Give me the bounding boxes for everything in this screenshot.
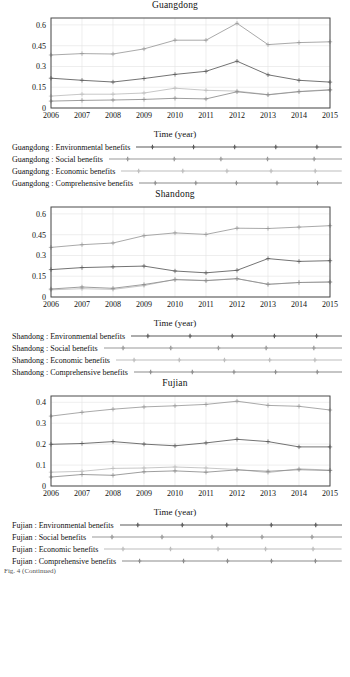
legend-line-economic [121,165,342,177]
legend-row[interactable]: Fujian : Social benefits [0,531,350,543]
legend-line-social [92,531,342,543]
legend-line-social [109,153,342,165]
x-axis-label: Time (year) [0,129,350,139]
panel-fujian: Fujian 00.10.20.30.420062007200820092010… [0,378,350,567]
y-tick-label: 0.45 [32,231,46,240]
x-tick-label: 2015 [322,111,338,120]
x-tick-label: 2007 [74,489,90,498]
y-tick-label: 0.3 [36,251,46,260]
series-line-social [51,401,330,416]
x-tick-label: 2010 [167,111,183,120]
legend-label: Shandong : Comprehensive benefits [0,368,128,377]
series-line-environmental [51,61,330,82]
multi-panel-line-chart-figure: Guangdong 00.150.30.450.6200620072008200… [0,0,350,567]
legend-label: Fujian : Comprehensive benefits [0,557,116,566]
x-tick-label: 2010 [167,300,183,309]
plot-area: 00.150.30.450.62006200720082009201020112… [0,10,350,130]
y-tick-label: 0.3 [36,419,46,428]
y-tick-label: 0.15 [32,272,46,281]
series-line-comprehensive [51,90,330,101]
y-tick-label: 0.6 [36,21,46,30]
x-tick-label: 2009 [136,111,152,120]
legend-line-environmental [120,519,342,531]
y-tick-label: 0.45 [32,42,46,51]
legend: Fujian : Environmental benefits Fujian :… [0,519,350,567]
legend-line-environmental [131,330,342,342]
legend-row[interactable]: Guangdong : Comprehensive benefits [0,177,350,189]
series-line-economic [51,88,330,96]
legend-line-economic [104,543,342,555]
x-tick-label: 2014 [291,111,307,120]
legend-row[interactable]: Shandong : Comprehensive benefits [0,366,350,378]
panel-shandong: Shandong 00.150.30.450.62006200720082009… [0,189,350,378]
legend-row[interactable]: Fujian : Economic benefits [0,543,350,555]
series-line-comprehensive [51,470,330,477]
plot-wrapper: 00.10.20.30.4200620072008200920102011201… [0,388,350,508]
figure-caption-cut: Fig. 4 (Continued) [0,567,350,574]
series-line-social [51,23,330,55]
x-tick-label: 2009 [136,489,152,498]
series-line-comprehensive [51,279,330,289]
legend-label: Shandong : Environmental benefits [0,332,125,341]
legend-label: Guangdong : Economic benefits [0,167,115,176]
plot-area: 00.10.20.30.4200620072008200920102011201… [0,388,350,508]
x-tick-label: 2014 [291,489,307,498]
panel-title: Guangdong [0,0,350,10]
legend-row[interactable]: Shandong : Environmental benefits [0,330,350,342]
series-line-environmental [51,259,330,273]
x-tick-label: 2012 [229,489,245,498]
legend: Shandong : Environmental benefits Shando… [0,330,350,378]
legend-line-economic [116,354,342,366]
y-tick-label: 0.2 [36,440,46,449]
x-tick-label: 2013 [260,489,276,498]
x-tick-label: 2014 [291,300,307,309]
series-line-environmental [51,439,330,447]
legend-line-social [104,342,342,354]
legend-line-environmental [136,141,342,153]
x-tick-label: 2015 [322,489,338,498]
plot-wrapper: 00.150.30.450.62006200720082009201020112… [0,10,350,130]
panel-title: Shandong [0,189,350,199]
x-tick-label: 2011 [198,300,214,309]
legend-row[interactable]: Shandong : Social benefits [0,342,350,354]
x-tick-label: 2007 [74,300,90,309]
x-tick-label: 2010 [167,489,183,498]
x-tick-label: 2015 [322,300,338,309]
legend-line-comprehensive [122,555,342,567]
legend-label: Fujian : Social benefits [0,533,86,542]
plot-wrapper: 00.150.30.450.62006200720082009201020112… [0,199,350,319]
x-tick-label: 2006 [43,300,59,309]
legend-row[interactable]: Shandong : Economic benefits [0,354,350,366]
legend-line-comprehensive [139,177,342,189]
x-tick-label: 2008 [105,489,121,498]
y-tick-label: 0.6 [36,210,46,219]
legend-line-comprehensive [134,366,342,378]
legend: Guangdong : Environmental benefits Guang… [0,141,350,189]
x-tick-label: 2008 [105,300,121,309]
legend-label: Shandong : Economic benefits [0,356,110,365]
x-tick-label: 2006 [43,489,59,498]
x-tick-label: 2008 [105,111,121,120]
legend-row[interactable]: Guangdong : Economic benefits [0,165,350,177]
legend-label: Shandong : Social benefits [0,344,98,353]
y-tick-label: 0.15 [32,83,46,92]
x-tick-label: 2007 [74,111,90,120]
x-tick-label: 2012 [229,300,245,309]
x-tick-label: 2012 [229,111,245,120]
x-tick-label: 2011 [198,111,214,120]
x-axis-label: Time (year) [0,318,350,328]
legend-label: Guangdong : Environmental benefits [0,143,130,152]
legend-row[interactable]: Guangdong : Environmental benefits [0,141,350,153]
x-tick-label: 2013 [260,300,276,309]
y-tick-label: 0.4 [36,398,46,407]
panel-guangdong: Guangdong 00.150.30.450.6200620072008200… [0,0,350,189]
legend-row[interactable]: Fujian : Environmental benefits [0,519,350,531]
legend-label: Fujian : Economic benefits [0,545,98,554]
legend-label: Fujian : Environmental benefits [0,521,114,530]
legend-row[interactable]: Guangdong : Social benefits [0,153,350,165]
y-tick-label: 0.3 [36,62,46,71]
x-tick-label: 2011 [198,489,214,498]
x-tick-label: 2013 [260,111,276,120]
legend-row[interactable]: Fujian : Comprehensive benefits [0,555,350,567]
x-tick-label: 2009 [136,300,152,309]
